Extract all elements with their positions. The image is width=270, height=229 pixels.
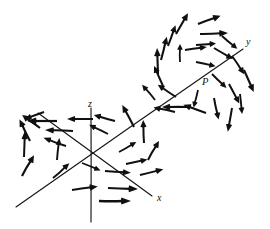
vector-field-figure: yPzx: [0, 0, 270, 229]
y-axis-label: y: [245, 36, 251, 47]
vector-shaft: [52, 130, 73, 131]
vector-field-canvas: yPzx: [0, 0, 270, 229]
vector-shaft: [196, 44, 211, 45]
vector-shaft: [24, 137, 25, 157]
vector-shaft: [108, 188, 131, 189]
vector-shaft: [200, 33, 221, 34]
point-p-label: P: [201, 76, 209, 87]
x-axis-label: x: [156, 192, 162, 203]
vector-shaft: [143, 126, 144, 143]
z-axis-label: z: [87, 98, 92, 109]
